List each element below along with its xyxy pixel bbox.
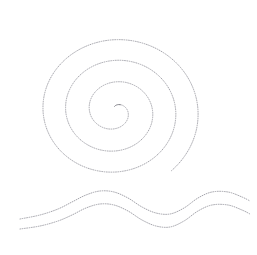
- artwork-canvas: [0, 0, 257, 255]
- canvas-background: [0, 0, 257, 255]
- artwork-svg: [0, 0, 257, 255]
